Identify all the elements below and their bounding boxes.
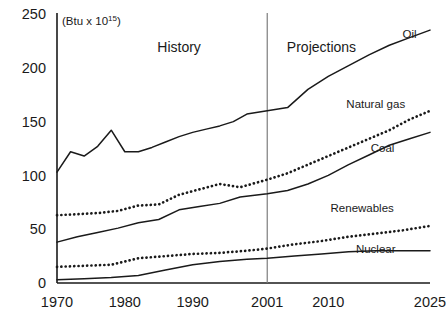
y-axis-tick-labels: 250200150100500 (22, 6, 46, 291)
y-tick-label: 250 (22, 6, 46, 22)
series-label-coal: Coal (371, 142, 395, 154)
series-label-renewables: Renewables (331, 202, 395, 214)
x-axis-tick-labels: 197019801990200120102025 (41, 294, 446, 310)
y-axis-unit-label: (Btu x 1015) (62, 14, 121, 27)
x-tick-label: 1990 (177, 294, 209, 310)
era-label-history: History (157, 39, 201, 55)
chart-canvas: 250200150100500 197019801990200120102025… (0, 0, 446, 323)
series-label-oil: Oil (403, 28, 417, 40)
energy-consumption-chart: 250200150100500 197019801990200120102025… (0, 0, 446, 323)
x-tick-label: 1970 (41, 294, 73, 310)
series-line-coal (57, 111, 430, 215)
series-label-natural-gas: Natural gas (346, 98, 405, 110)
x-tick-label: 2025 (414, 294, 446, 310)
y-tick-label: 0 (38, 275, 46, 291)
era-label-projections: Projections (287, 39, 356, 55)
y-tick-label: 150 (22, 114, 46, 130)
chart-annotations: HistoryProjections (157, 39, 356, 55)
x-tick-label: 2001 (251, 294, 283, 310)
series-label-nuclear: Nuclear (356, 243, 396, 255)
y-tick-label: 100 (22, 168, 46, 184)
x-tick-label: 2010 (312, 294, 344, 310)
y-tick-label: 200 (22, 60, 46, 76)
y-tick-label: 50 (30, 221, 46, 237)
x-tick-label: 1980 (109, 294, 141, 310)
